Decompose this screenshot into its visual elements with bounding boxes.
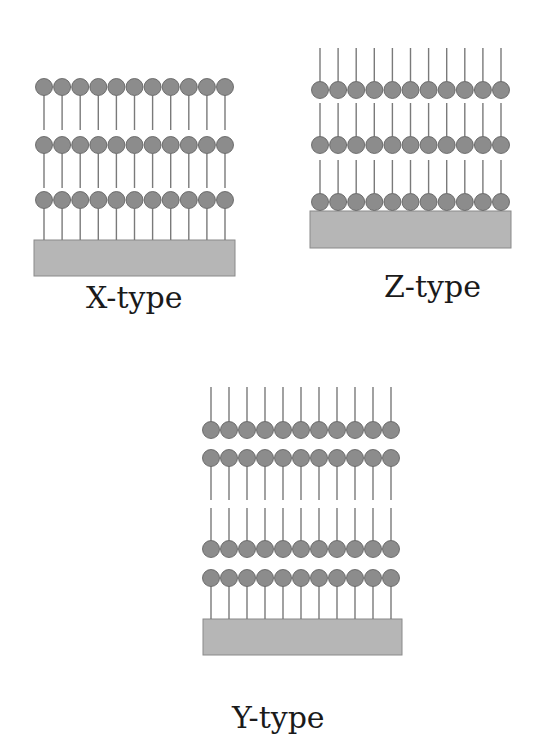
substrate (310, 211, 511, 248)
hydrophilic-head (217, 192, 234, 209)
hydrophilic-head (365, 570, 382, 587)
hydrophilic-head (329, 422, 346, 439)
hydrophilic-head (257, 450, 274, 467)
hydrophilic-head (493, 82, 510, 99)
hydrophilic-head (384, 137, 401, 154)
monolayer-row (203, 570, 400, 620)
hydrophilic-head (347, 422, 364, 439)
hydrophilic-head (90, 192, 107, 209)
hydrophilic-head (221, 541, 238, 558)
hydrophilic-head (217, 79, 234, 96)
hydrophilic-head (144, 137, 161, 154)
hydrophilic-head (257, 541, 274, 558)
monolayer-row (203, 508, 400, 558)
hydrophilic-head (198, 137, 215, 154)
monolayer-row (36, 192, 234, 241)
hydrophilic-head (162, 192, 179, 209)
hydrophilic-head (330, 137, 347, 154)
hydrophilic-head (293, 541, 310, 558)
hydrophilic-head (162, 137, 179, 154)
hydrophilic-head (239, 570, 256, 587)
hydrophilic-head (348, 194, 365, 211)
hydrophilic-head (420, 137, 437, 154)
hydrophilic-head (402, 82, 419, 99)
hydrophilic-head (366, 194, 383, 211)
hydrophilic-head (221, 450, 238, 467)
hydrophilic-head (456, 137, 473, 154)
hydrophilic-head (311, 541, 328, 558)
hydrophilic-head (221, 570, 238, 587)
hydrophilic-head (474, 194, 491, 211)
hydrophilic-head (366, 82, 383, 99)
hydrophilic-head (198, 79, 215, 96)
hydrophilic-head (203, 570, 220, 587)
monolayer-row (312, 48, 510, 99)
hydrophilic-head (347, 570, 364, 587)
hydrophilic-head (293, 422, 310, 439)
hydrophilic-head (384, 82, 401, 99)
hydrophilic-head (239, 450, 256, 467)
hydrophilic-head (203, 541, 220, 558)
hydrophilic-head (348, 82, 365, 99)
hydrophilic-head (312, 82, 329, 99)
hydrophilic-head (54, 192, 71, 209)
monolayer-row (203, 387, 400, 439)
hydrophilic-head (72, 79, 89, 96)
hydrophilic-head (329, 541, 346, 558)
hydrophilic-head (329, 450, 346, 467)
hydrophilic-head (36, 79, 53, 96)
hydrophilic-head (330, 82, 347, 99)
hydrophilic-head (203, 422, 220, 439)
monolayer-row (312, 160, 510, 211)
hydrophilic-head (493, 137, 510, 154)
hydrophilic-head (144, 192, 161, 209)
hydrophilic-head (311, 422, 328, 439)
hydrophilic-head (383, 422, 400, 439)
hydrophilic-head (180, 137, 197, 154)
hydrophilic-head (347, 541, 364, 558)
hydrophilic-head (420, 82, 437, 99)
hydrophilic-head (383, 570, 400, 587)
y-type-label: Y-type (232, 703, 325, 733)
hydrophilic-head (383, 541, 400, 558)
hydrophilic-head (312, 137, 329, 154)
hydrophilic-head (438, 82, 455, 99)
substrate (34, 240, 235, 276)
hydrophilic-head (456, 194, 473, 211)
lb-film-diagram (0, 0, 533, 750)
hydrophilic-head (108, 79, 125, 96)
hydrophilic-head (311, 450, 328, 467)
monolayer-row (36, 79, 234, 131)
hydrophilic-head (54, 79, 71, 96)
monolayer-row (312, 103, 510, 154)
monolayer-row (203, 450, 400, 501)
hydrophilic-head (456, 82, 473, 99)
hydrophilic-head (365, 541, 382, 558)
hydrophilic-head (72, 192, 89, 209)
hydrophilic-head (293, 570, 310, 587)
hydrophilic-head (293, 450, 310, 467)
hydrophilic-head (275, 541, 292, 558)
hydrophilic-head (366, 137, 383, 154)
hydrophilic-head (348, 137, 365, 154)
hydrophilic-head (365, 422, 382, 439)
hydrophilic-head (275, 570, 292, 587)
hydrophilic-head (144, 79, 161, 96)
hydrophilic-head (126, 137, 143, 154)
x-type-label: X-type (86, 283, 182, 313)
substrate (203, 619, 402, 655)
hydrophilic-head (90, 79, 107, 96)
hydrophilic-head (217, 137, 234, 154)
hydrophilic-head (402, 137, 419, 154)
hydrophilic-head (438, 194, 455, 211)
hydrophilic-head (239, 541, 256, 558)
hydrophilic-head (203, 450, 220, 467)
hydrophilic-head (329, 570, 346, 587)
hydrophilic-head (438, 137, 455, 154)
hydrophilic-head (72, 137, 89, 154)
hydrophilic-head (275, 450, 292, 467)
hydrophilic-head (347, 450, 364, 467)
hydrophilic-head (275, 422, 292, 439)
monolayer-row (36, 137, 234, 189)
x-type-panel (34, 79, 235, 277)
